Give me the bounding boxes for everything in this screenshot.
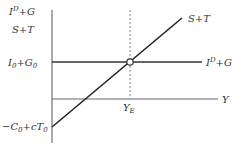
intercept-i0-g0-label: I0+G0 xyxy=(7,57,38,70)
x-axis-label: Y xyxy=(222,94,230,105)
savings-taxes-curve-label: S+T xyxy=(188,13,211,24)
intercept-c0-t0-label: −C0+cT0 xyxy=(2,121,48,134)
y-axis-label-line1: ID+G xyxy=(8,5,35,17)
investment-government-curve-label: ID+G xyxy=(205,56,232,68)
y-axis-label-line2: S+T xyxy=(12,24,35,35)
equilibrium-diagram: ID+G S+T I0+G0 −C0+cT0 S+T ID+G Y YE xyxy=(0,0,239,144)
equilibrium-income-label: YE xyxy=(123,102,135,115)
savings-taxes-line xyxy=(52,18,182,127)
equilibrium-point xyxy=(127,59,133,65)
